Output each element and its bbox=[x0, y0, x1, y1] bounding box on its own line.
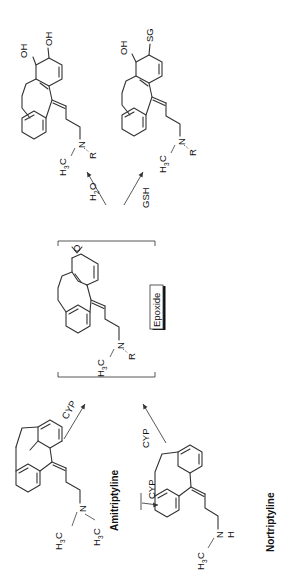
cyp-label-3: CYP bbox=[140, 428, 151, 448]
diol-oh-1: OH bbox=[18, 44, 29, 58]
svg-text:H: H bbox=[91, 539, 102, 546]
svg-text:C: C bbox=[53, 532, 64, 539]
svg-text:C: C bbox=[91, 528, 102, 535]
epoxide-r-label: R bbox=[126, 353, 137, 360]
svg-text:H: H bbox=[95, 370, 106, 377]
epoxide-o-label: O bbox=[71, 245, 82, 252]
gsh-conjugate-structure: OH SG N R H 3 C bbox=[118, 28, 198, 173]
cyp-label-2: CYP bbox=[59, 399, 78, 421]
gsh-conjugate-n-label: N bbox=[176, 138, 187, 145]
diol-h3c: H 3 C bbox=[57, 158, 70, 176]
svg-text:C: C bbox=[195, 552, 206, 559]
amitriptyline-h3c-1: H 3 C bbox=[53, 532, 66, 550]
amitriptyline-n-label: N bbox=[77, 505, 88, 512]
cyp-label-1: CYP bbox=[146, 479, 157, 499]
gsh-conjugate-sg: SG bbox=[144, 28, 155, 42]
arrow-amitriptyline-to-nortriptyline-main bbox=[142, 503, 158, 508]
svg-text:H: H bbox=[87, 194, 98, 201]
gsh-conjugate-r-label: R bbox=[187, 149, 198, 156]
epoxide-label: Epoxide bbox=[151, 293, 162, 327]
diol-oh-2: OH bbox=[43, 32, 54, 46]
nortriptyline-h-label: H bbox=[225, 531, 236, 538]
nortriptyline-label: Nortriptyline bbox=[265, 492, 276, 552]
epoxide-n-label: N bbox=[115, 342, 126, 349]
epoxide-label-box: Epoxide bbox=[150, 285, 166, 330]
svg-text:H: H bbox=[157, 166, 168, 173]
diol-n-label: N bbox=[76, 141, 87, 148]
diol-structure: OH OH N R H 3 C bbox=[18, 32, 98, 176]
gsh-conjugate-h3c: H 3 C bbox=[157, 155, 170, 173]
nortriptyline-h3c: H 3 C bbox=[195, 552, 208, 570]
diol-r-label: R bbox=[87, 152, 98, 159]
arrow-amitriptyline-to-nortriptyline bbox=[140, 493, 141, 510]
svg-text:O: O bbox=[87, 183, 98, 190]
gsh-conjugate-oh: OH bbox=[118, 41, 129, 55]
svg-text:C: C bbox=[57, 158, 68, 165]
nortriptyline-structure: N H H 3 C bbox=[155, 445, 236, 570]
svg-text:C: C bbox=[95, 359, 106, 366]
svg-text:H: H bbox=[195, 563, 206, 570]
svg-text:C: C bbox=[157, 155, 168, 162]
svg-text:H: H bbox=[57, 169, 68, 176]
epoxide-structure: O N R H 3 C bbox=[58, 245, 137, 377]
amitriptyline-structure: N H 3 C H 3 C bbox=[16, 420, 104, 550]
amitriptyline-label: Amitriptyline bbox=[109, 469, 120, 531]
nortriptyline-n-label: N bbox=[214, 531, 225, 538]
amitriptyline-h3c-2: H 3 C bbox=[91, 528, 104, 546]
reaction-scheme: N H 3 C H 3 C Amitriptyline N H H bbox=[0, 0, 290, 579]
svg-text:H: H bbox=[53, 543, 64, 550]
gsh-label: GSH bbox=[140, 187, 151, 208]
epoxide-h3c: H 3 C bbox=[95, 359, 108, 377]
h2o-label: H 2 O bbox=[87, 183, 100, 201]
